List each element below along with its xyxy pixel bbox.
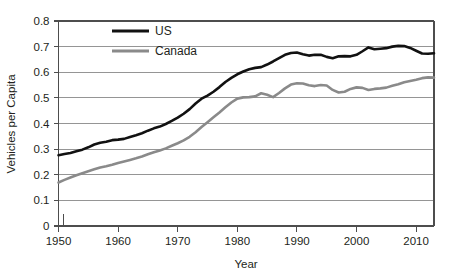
x-axis-tick-label: 1950 bbox=[46, 235, 72, 247]
y-axis-tick-labels: 00.10.20.30.40.50.60.70.8 bbox=[34, 15, 59, 232]
y-axis-tick-label: 0.2 bbox=[34, 169, 50, 181]
x-axis-tick-labels: 1950196019701980199020002010 bbox=[46, 235, 429, 247]
x-axis-tick-label: 1970 bbox=[165, 235, 191, 247]
x-axis-tick-label: 1960 bbox=[105, 235, 131, 247]
x-axis-tick-label: 1980 bbox=[225, 235, 251, 247]
y-axis-tick-label: 0.8 bbox=[34, 15, 50, 27]
y-axis-tick-label: 0 bbox=[43, 220, 49, 232]
data-series bbox=[59, 46, 435, 183]
y-axis-tick-label: 0.4 bbox=[34, 118, 51, 130]
series-line-us bbox=[59, 46, 435, 155]
chart-container: 00.10.20.30.40.50.60.70.8 19501960197019… bbox=[0, 0, 451, 276]
x-axis-tick-label: 2010 bbox=[403, 235, 429, 247]
x-axis-tick-label: 1990 bbox=[284, 235, 310, 247]
x-axis-title: Year bbox=[234, 258, 257, 270]
y-axis-tick-label: 0.1 bbox=[34, 194, 50, 206]
legend-label-canada: Canada bbox=[155, 44, 197, 58]
line-chart: 00.10.20.30.40.50.60.70.8 19501960197019… bbox=[0, 0, 451, 276]
chart-legend: USCanada bbox=[112, 24, 197, 58]
legend-label-us: US bbox=[155, 24, 172, 38]
series-line-canada bbox=[59, 77, 435, 182]
y-axis-tick-label: 0.6 bbox=[34, 66, 50, 78]
x-axis-tick-label: 2000 bbox=[344, 235, 370, 247]
y-axis-title: Vehicles per Capita bbox=[5, 74, 17, 174]
x-axis-tickmarks bbox=[59, 214, 417, 232]
y-axis-tick-label: 0.3 bbox=[34, 143, 50, 155]
y-axis-tick-label: 0.5 bbox=[34, 92, 50, 104]
y-axis-tick-label: 0.7 bbox=[34, 41, 50, 53]
